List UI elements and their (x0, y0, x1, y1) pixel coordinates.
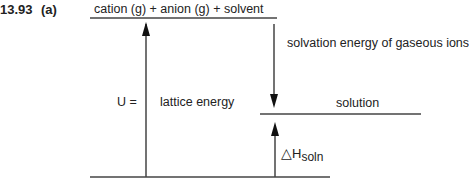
soln-subscript: soln (301, 150, 323, 164)
solvation-energy-label: solvation energy of gaseous ions (287, 36, 469, 50)
solution-level-label: solution (336, 96, 379, 110)
enthalpy-symbol: H (292, 146, 301, 161)
top-level-label: cation (g) + anion (g) + solvent (94, 2, 264, 16)
delta-icon: △ (281, 145, 292, 161)
lattice-arrowhead-icon (142, 22, 150, 36)
delta-h-arrowhead-icon (271, 122, 279, 136)
lattice-energy-label: lattice energy (160, 95, 234, 109)
u-equals-label: U = (117, 95, 137, 109)
solvation-arrowhead-icon (270, 94, 278, 108)
delta-h-soln-label: △Hsoln (281, 145, 323, 161)
